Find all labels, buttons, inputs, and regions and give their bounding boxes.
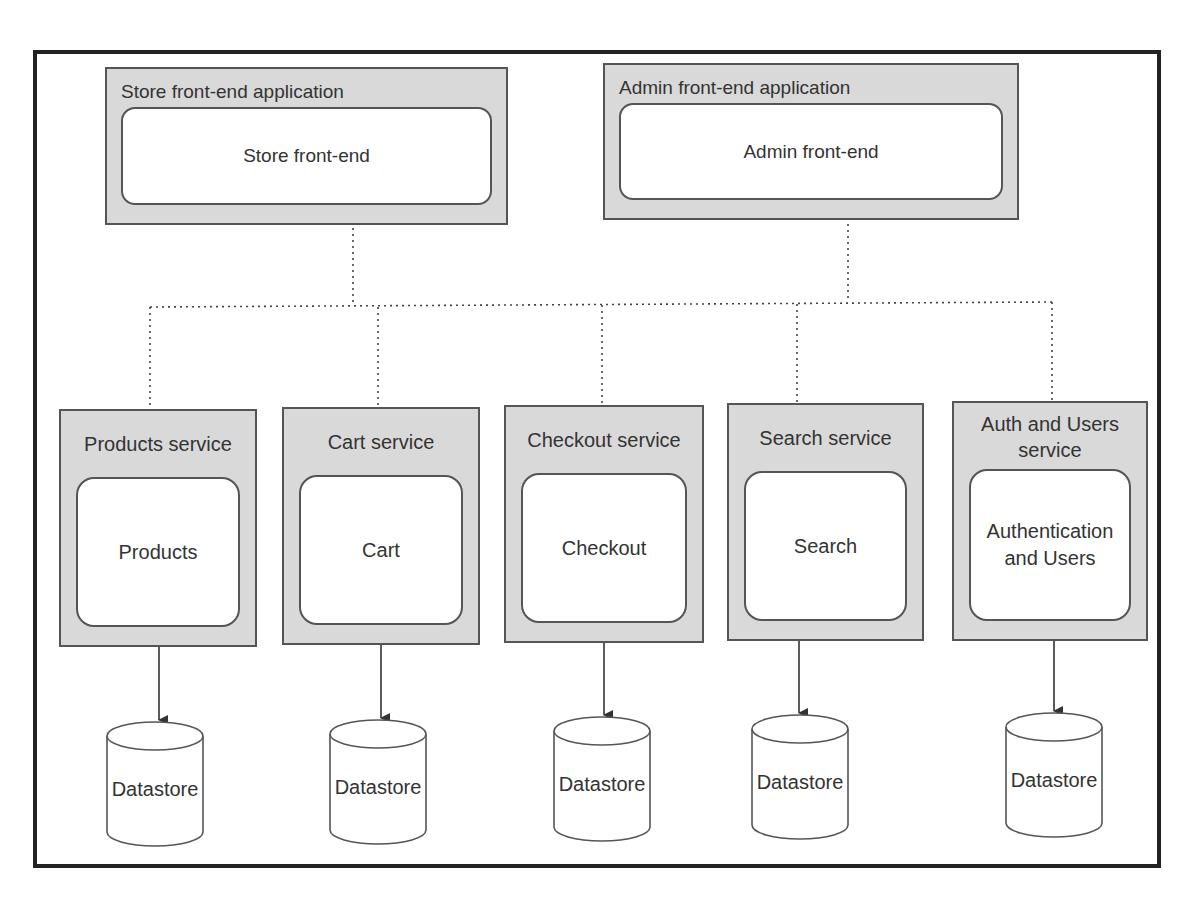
auth-users-service-label: Auth and Users service (954, 411, 1146, 463)
cart-datastore-label: Datastore (328, 776, 428, 799)
search-service-label: Search service (729, 425, 922, 451)
products-datastore: Datastore (105, 720, 205, 850)
products-service-label: Products service (61, 431, 255, 457)
store-frontend-component: Store front-end (121, 107, 492, 205)
store-frontend-label: Store front-end (243, 145, 370, 167)
products-component: Products (76, 477, 240, 627)
products-datastore-label: Datastore (105, 778, 205, 801)
search-service: Search service Search (727, 403, 924, 641)
cart-service: Cart service Cart (282, 407, 480, 645)
search-component: Search (744, 471, 907, 621)
auth-users-service: Auth and Users service Authentication an… (952, 401, 1148, 641)
products-label: Products (119, 539, 198, 566)
checkout-component: Checkout (521, 473, 687, 623)
search-datastore: Datastore (750, 713, 850, 843)
search-datastore-label: Datastore (750, 771, 850, 794)
auth-users-datastore-label: Datastore (1004, 769, 1104, 792)
checkout-service: Checkout service Checkout (504, 405, 704, 643)
auth-users-datastore: Datastore (1004, 711, 1104, 841)
search-label: Search (794, 533, 857, 560)
admin-frontend-application: Admin front-end application Admin front-… (603, 63, 1019, 220)
checkout-label: Checkout (562, 535, 647, 562)
products-service: Products service Products (59, 409, 257, 647)
store-frontend-application: Store front-end application Store front-… (105, 67, 508, 225)
admin-frontend-component: Admin front-end (619, 103, 1003, 200)
auth-users-label: Authentication and Users (985, 518, 1115, 572)
auth-users-component: Authentication and Users (969, 469, 1131, 621)
admin-frontend-label: Admin front-end (743, 141, 878, 163)
store-frontend-application-label: Store front-end application (121, 81, 344, 103)
checkout-service-label: Checkout service (506, 427, 702, 453)
admin-frontend-application-label: Admin front-end application (619, 77, 850, 99)
cart-datastore: Datastore (328, 718, 428, 848)
checkout-datastore: Datastore (552, 715, 652, 845)
cart-component: Cart (299, 475, 463, 625)
checkout-datastore-label: Datastore (552, 773, 652, 796)
cart-label: Cart (362, 537, 400, 564)
cart-service-label: Cart service (284, 429, 478, 455)
